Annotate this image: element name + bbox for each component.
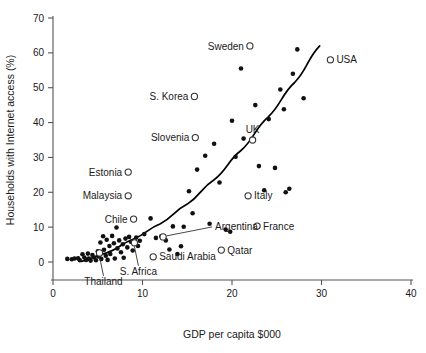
data-point: [119, 250, 124, 255]
data-point: [110, 234, 115, 239]
data-point: [301, 96, 306, 101]
data-point: [88, 258, 93, 263]
data-point: [94, 258, 99, 263]
y-tick-label-40: 40: [33, 117, 45, 128]
chart-canvas: 010203040506070010203040GDP per capita $…: [0, 0, 426, 353]
data-point: [257, 164, 262, 169]
data-point: [181, 225, 186, 230]
y-tick-label-10: 10: [33, 222, 45, 233]
labeled-point-sweden: Sweden: [208, 41, 253, 52]
label-leader-line: [134, 246, 138, 265]
data-point: [190, 211, 195, 216]
point-label: Thailand: [84, 276, 122, 287]
data-point: [98, 240, 103, 245]
data-point: [86, 251, 91, 256]
x-tick-label-0: 0: [50, 288, 56, 299]
data-point: [195, 167, 200, 172]
open-marker: [131, 216, 137, 222]
data-point: [241, 136, 246, 141]
labeled-point-italy: Italy: [245, 190, 272, 201]
point-label: Sweden: [208, 41, 244, 52]
labeled-point-uk: UK: [246, 124, 260, 143]
y-axis-title: Households with Internet access (%): [4, 55, 16, 225]
open-marker: [250, 137, 256, 143]
data-point: [65, 257, 70, 262]
data-point: [203, 153, 208, 158]
x-tick-label-30: 30: [316, 288, 328, 299]
data-point: [207, 221, 212, 226]
labeled-point-slovenia: Slovenia: [151, 132, 198, 143]
open-marker: [96, 250, 102, 256]
labeled-point-saudi-arabia: Saudi Arabia: [150, 251, 216, 262]
y-tick-label-60: 60: [33, 47, 45, 58]
data-point: [282, 107, 287, 112]
data-point: [117, 238, 122, 243]
data-point: [142, 232, 147, 237]
y-tick-label-30: 30: [33, 152, 45, 163]
open-marker: [125, 193, 131, 199]
data-point: [278, 87, 283, 92]
point-label: Argentina: [215, 221, 258, 232]
labeled-point-malaysia: Malaysia: [83, 190, 132, 201]
x-tick-label-10: 10: [137, 288, 149, 299]
data-point: [104, 253, 109, 258]
open-marker: [150, 254, 156, 260]
data-point: [105, 258, 110, 263]
data-point: [113, 256, 118, 261]
data-point: [112, 241, 117, 246]
data-point: [115, 246, 120, 251]
point-label: Malaysia: [83, 190, 123, 201]
data-point: [287, 187, 292, 192]
open-marker: [191, 93, 197, 99]
labeled-point-france: France: [254, 221, 295, 232]
point-label: Slovenia: [151, 132, 190, 143]
data-point: [212, 142, 217, 147]
data-point: [121, 242, 126, 247]
data-point: [154, 236, 159, 241]
data-point: [171, 224, 176, 229]
point-label: Chile: [105, 214, 128, 225]
x-axis-title: GDP per capita $000: [183, 328, 281, 340]
data-point: [266, 117, 271, 122]
data-point: [239, 66, 244, 71]
labeled-point-s-korea: S. Korea: [149, 91, 197, 102]
data-point: [217, 180, 222, 185]
open-marker: [125, 169, 131, 175]
open-marker: [131, 240, 137, 246]
data-point: [138, 238, 143, 243]
data-point: [127, 235, 132, 240]
data-point: [104, 237, 109, 242]
y-tick-label-50: 50: [33, 82, 45, 93]
data-point: [187, 189, 192, 194]
labeled-point-estonia: Estonia: [89, 167, 131, 178]
labeled-point-qatar: Qatar: [218, 245, 253, 256]
data-point: [78, 258, 83, 263]
y-tick-label-70: 70: [33, 13, 45, 24]
data-point: [148, 216, 153, 221]
data-point: [233, 154, 238, 159]
data-point: [121, 255, 126, 260]
data-point: [295, 47, 300, 52]
data-point: [130, 248, 135, 253]
data-point: [125, 245, 130, 250]
data-point: [107, 244, 112, 249]
data-point: [283, 190, 288, 195]
point-label: UK: [246, 124, 260, 135]
point-label: Estonia: [89, 167, 123, 178]
open-marker: [247, 43, 253, 49]
open-marker: [327, 57, 333, 63]
point-label: S. Korea: [149, 91, 188, 102]
data-point: [108, 252, 113, 257]
data-point: [273, 166, 278, 171]
labeled-point-chile: Chile: [105, 214, 137, 225]
x-tick-label-40: 40: [405, 288, 417, 299]
labeled-point-thailand: Thailand: [84, 250, 122, 287]
open-marker: [192, 135, 198, 141]
point-label: Italy: [254, 190, 272, 201]
data-point: [253, 103, 258, 108]
open-marker: [245, 193, 251, 199]
scatter-chart: 010203040506070010203040GDP per capita $…: [0, 0, 426, 353]
labeled-point-usa: USA: [327, 54, 357, 65]
point-label: Saudi Arabia: [159, 251, 216, 262]
data-point: [101, 234, 106, 239]
